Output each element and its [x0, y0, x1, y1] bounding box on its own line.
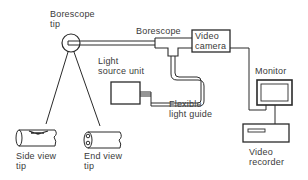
label-video-recorder: Video recorder	[249, 147, 284, 167]
pointer-end-view	[74, 52, 100, 126]
label-borescope: Borescope	[136, 26, 181, 36]
borescope-tip-circle	[62, 34, 80, 52]
pointer-side-view	[46, 52, 68, 124]
light-source-unit-box	[111, 82, 140, 104]
label-flexible-light-guide: Flexible light guide	[169, 99, 212, 119]
label-end-view-tip: End view tip	[84, 151, 122, 171]
monitor-screen	[261, 84, 288, 101]
label-borescope-tip: Borescope tip	[50, 9, 95, 29]
label-side-view-tip: Side view tip	[16, 151, 56, 171]
borescope-body	[155, 38, 192, 56]
recorder-slot	[248, 129, 265, 132]
side-view-tip-drawing	[16, 130, 56, 146]
borescope-tube	[68, 41, 155, 45]
label-light-source-unit: Light source unit	[98, 56, 144, 76]
video-recorder-box	[243, 124, 289, 142]
label-video-camera: Video camera	[195, 31, 226, 51]
label-monitor: Monitor	[255, 66, 286, 76]
end-view-tip-drawing	[84, 132, 121, 148]
